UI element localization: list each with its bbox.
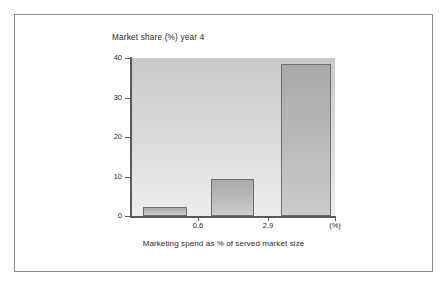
y-tick-20 (125, 137, 130, 138)
y-tick-label-10-wrap: 10 (102, 173, 122, 181)
y-tick-label-0-wrap: 0 (102, 212, 122, 220)
x-axis-caption: Marketing spend as % of served market si… (0, 239, 447, 248)
y-tick-40 (125, 58, 130, 59)
y-tick-10 (125, 177, 130, 178)
x-axis-line (130, 216, 336, 218)
x-tick-label-0: 0.6 (183, 222, 213, 230)
x-tick-label-1: 2.9 (253, 222, 283, 230)
y-tick-label-40: 40 (104, 54, 122, 62)
y-tick-label-20: 20 (104, 133, 122, 141)
x-tick-label-2: (%) (320, 222, 350, 230)
y-tick-label-40-wrap: 40 (102, 54, 122, 62)
y-tick-label-30: 30 (104, 94, 122, 102)
bar-2 (281, 64, 331, 216)
bar-1 (211, 179, 254, 217)
y-tick-0 (125, 216, 130, 217)
figure-root: Market share (%) year 4 40 30 20 10 0 0.… (0, 0, 447, 292)
y-tick-label-20-wrap: 20 (102, 133, 122, 141)
chart-title: Market share (%) year 4 (112, 33, 204, 42)
y-tick-label-10: 10 (104, 173, 122, 181)
y-tick-label-0: 0 (104, 212, 122, 220)
bar-0 (143, 207, 187, 216)
y-tick-label-30-wrap: 30 (102, 94, 122, 102)
y-tick-30 (125, 98, 130, 99)
y-axis-line (130, 57, 132, 217)
